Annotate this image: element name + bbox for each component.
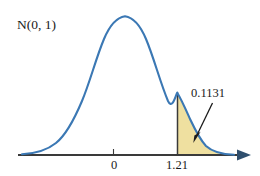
normal-distribution-figure: N(0, 1) 0.1131 0 1.21 [0,0,260,176]
annotation-arrow-line [198,103,213,134]
x-axis-arrowhead [237,150,251,161]
tick-label-0: 0 [108,159,120,172]
tail-area-annotation: 0.1131 [191,87,225,100]
tick-label-z: 1.21 [163,159,191,172]
distribution-label: N(0, 1) [17,18,56,32]
